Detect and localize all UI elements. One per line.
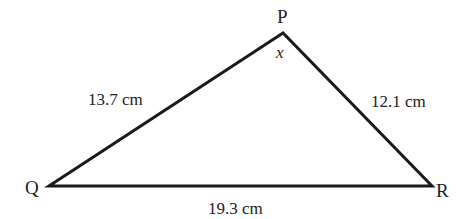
triangle-diagram: P Q R x 13.7 cm 12.1 cm 19.3 cm [0,0,472,219]
side-label-qr: 19.3 cm [208,199,263,218]
angle-label-x: x [275,43,284,62]
side-label-pq: 13.7 cm [88,90,143,109]
vertex-label-p: P [277,6,288,27]
vertex-label-r: R [436,180,449,201]
side-label-pr: 12.1 cm [371,92,426,111]
vertex-label-q: Q [25,177,39,198]
